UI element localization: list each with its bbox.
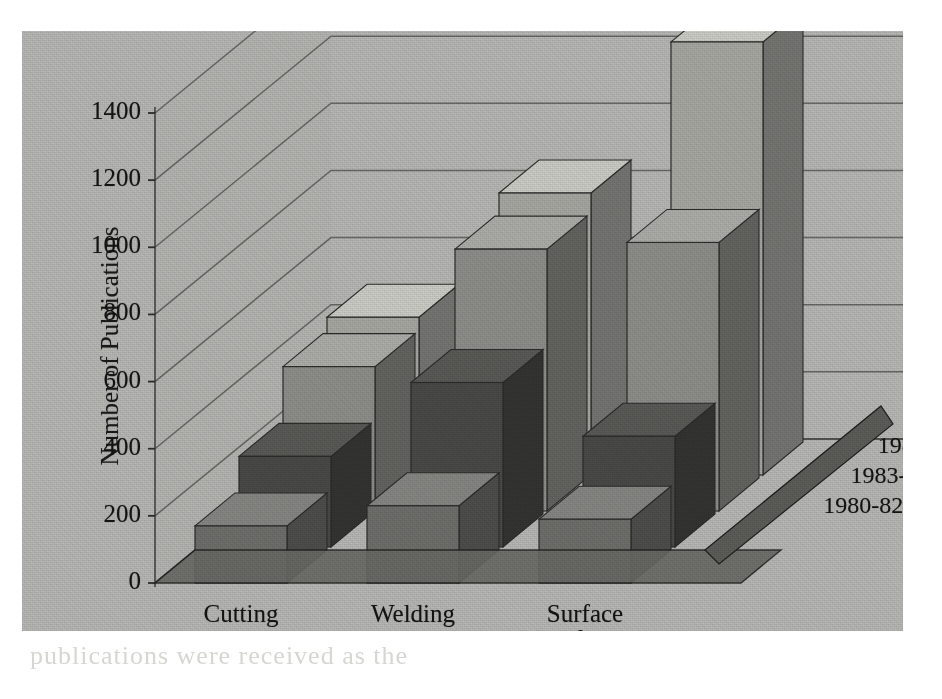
depth-axis-label-1980-82: 1980-82 — [823, 492, 903, 519]
depth-axis-label-1983-85: 1983-85 — [850, 462, 903, 489]
plot-area — [22, 31, 903, 631]
y-axis-tick-label-600: 600 — [22, 366, 141, 394]
bar-1983-85-welding-side — [503, 350, 543, 548]
x-axis-category-label-line: Modification — [475, 627, 695, 632]
bleed-through-text: publications were received as the — [30, 641, 890, 681]
bar-1989-91-surface-modification-side — [763, 31, 803, 475]
y-axis-tick-label-1200: 1200 — [22, 164, 141, 192]
x-axis-category-label-surface-modification: SurfaceModification — [475, 601, 695, 631]
y-axis-tick-label-400: 400 — [22, 433, 141, 461]
x-axis-category-label-line: Surface — [475, 601, 695, 627]
y-axis-tick-label-1000: 1000 — [22, 231, 141, 259]
floor-front-edge — [155, 550, 781, 583]
chart-svg — [22, 31, 903, 631]
y-axis-tick-label-800: 800 — [22, 298, 141, 326]
scanned-page: Number of Publications 14001200100080060… — [0, 0, 942, 699]
depth-axis-label-1986-88: 1986-88 — [878, 432, 903, 459]
y-axis-tick-label-200: 200 — [22, 500, 141, 528]
y-axis-tick-label-0: 0 — [22, 567, 141, 595]
bar-1986-88-welding-side — [547, 216, 587, 511]
chart-panel: Number of Publications 14001200100080060… — [22, 31, 903, 631]
y-axis-tick-label-1400: 1400 — [22, 97, 141, 125]
bar-1986-88-surface-modification-side — [719, 209, 759, 511]
